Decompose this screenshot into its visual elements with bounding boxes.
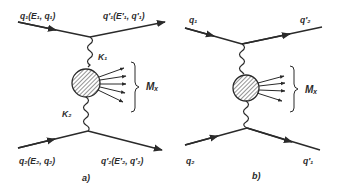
- diagram-b: [185, 27, 322, 150]
- photon-bottom-wave-b: [244, 101, 249, 128]
- interaction-blob-a: [72, 69, 100, 97]
- outgoing-particles-b: [257, 76, 285, 101]
- photon-k1-wave: [88, 37, 93, 67]
- label-photon-k2: K₂: [62, 110, 71, 119]
- arrow-icon: [18, 22, 56, 30]
- label-final-state-b: Mₓ: [305, 85, 317, 95]
- label-incoming-bottom-a: q₂(E₂, q₂): [19, 157, 55, 166]
- label-photon-k1: K₁: [98, 53, 107, 62]
- diagram-a: [18, 22, 165, 150]
- label-outgoing-top-a: q′₁(E′₁, q′₁): [103, 12, 145, 21]
- fermion-line-bottom-a: [18, 131, 162, 150]
- caption-a: a): [82, 174, 90, 183]
- photon-k2-wave: [84, 97, 90, 131]
- label-incoming-top-a: q₁(E₁, q₁): [20, 12, 55, 21]
- label-incoming-bottom-b: q₂: [186, 157, 194, 166]
- label-incoming-top-b: q₁: [189, 16, 197, 25]
- brace-icon: [290, 66, 298, 112]
- fermion-line-top-a: [18, 22, 165, 37]
- interaction-blob-b: [233, 75, 259, 101]
- label-outgoing-bottom-b: q′₁: [303, 157, 313, 166]
- fermion-line-top-b: [185, 27, 322, 44]
- label-outgoing-top-b: q′₂: [300, 16, 310, 25]
- caption-b: b): [252, 172, 261, 181]
- brace-icon: [131, 62, 139, 112]
- label-final-state-a: Mₓ: [146, 82, 158, 92]
- label-outgoing-bottom-a: q′₂(E′₂, q′₂): [101, 157, 143, 166]
- fermion-line-bottom-b: [185, 128, 320, 150]
- outgoing-particles-a: [98, 68, 126, 102]
- photon-top-wave-b: [240, 44, 245, 74]
